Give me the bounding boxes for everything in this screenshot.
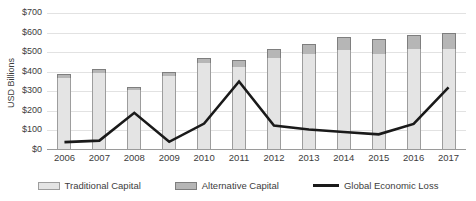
x-axis-tick-label: 2009 (152, 152, 187, 163)
x-axis-tick-label: 2015 (361, 152, 396, 163)
y-axis-tick-label: $500 (0, 46, 42, 56)
y-axis-tick-label: $0 (0, 144, 42, 154)
line-series-layer (47, 13, 466, 150)
y-axis-tick-label: $600 (0, 27, 42, 37)
chart-legend: Traditional CapitalAlternative CapitalGl… (0, 180, 476, 191)
y-axis-tick-label: $300 (0, 85, 42, 95)
x-axis-tick-label: 2014 (326, 152, 361, 163)
chart-container: USD Billions $0$100$200$300$400$500$600$… (0, 0, 476, 201)
legend-swatch-traditional-capital (38, 182, 60, 190)
y-axis-tick-label: $700 (0, 7, 42, 17)
x-axis-tick-label: 2013 (291, 152, 326, 163)
x-axis-tick-label: 2008 (117, 152, 152, 163)
x-axis-tick-label: 2017 (431, 152, 466, 163)
x-axis-labels: 2006200720082009201020112012201320142015… (47, 152, 466, 168)
x-axis-tick-label: 2012 (257, 152, 292, 163)
y-axis-tick-label: $100 (0, 124, 42, 134)
legend-item[interactable]: Traditional Capital (38, 180, 141, 191)
x-axis-tick-label: 2006 (47, 152, 82, 163)
x-axis-line (47, 149, 466, 150)
legend-item[interactable]: Alternative Capital (175, 180, 279, 191)
legend-swatch-alternative-capital (175, 182, 197, 190)
y-axis-tick-label: $400 (0, 66, 42, 76)
plot-area (47, 13, 466, 150)
y-axis-tick-label: $200 (0, 105, 42, 115)
line-global-economic-loss (64, 82, 448, 143)
legend-item[interactable]: Global Economic Loss (313, 180, 439, 191)
x-axis-tick-label: 2007 (82, 152, 117, 163)
x-axis-tick-label: 2016 (396, 152, 431, 163)
legend-item-label: Traditional Capital (65, 180, 141, 191)
legend-item-label: Global Economic Loss (344, 180, 439, 191)
x-axis-tick-label: 2011 (222, 152, 257, 163)
x-axis-tick-label: 2010 (187, 152, 222, 163)
legend-item-label: Alternative Capital (202, 180, 279, 191)
legend-swatch-global-economic-loss (313, 184, 339, 187)
